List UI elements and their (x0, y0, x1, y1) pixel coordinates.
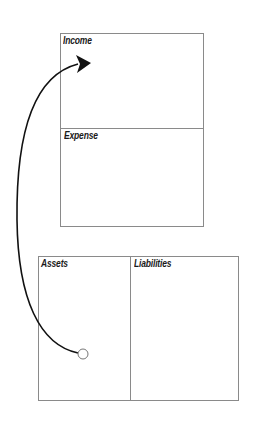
start-circle-icon (78, 349, 88, 359)
flow-arrow (0, 0, 260, 424)
arrowhead-icon (76, 55, 91, 73)
flow-arrow-curve (17, 64, 78, 353)
